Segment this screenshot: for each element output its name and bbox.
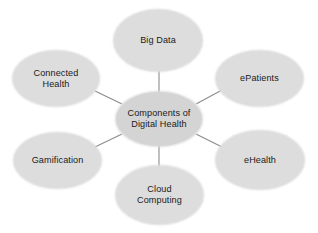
node-components-of-digital-health-label: Components of Digital Health [125, 108, 194, 129]
edge-center-to-epatients [196, 90, 222, 104]
concept-map-diagram: Big Data ePatients eHealth Cloud Computi… [0, 0, 318, 233]
node-cloud-computing[interactable]: Cloud Computing [116, 166, 203, 224]
edge-center-to-ehealth [196, 134, 222, 147]
node-big-data-label: Big Data [137, 35, 179, 46]
node-connected-health-label: Connected Health [31, 68, 82, 89]
edge-center-to-connected-health [95, 91, 122, 104]
node-gamification-label: Gamification [29, 155, 87, 166]
node-big-data[interactable]: Big Data [114, 10, 202, 71]
edge-center-to-gamification [95, 134, 122, 147]
node-connected-health[interactable]: Connected Health [13, 51, 99, 106]
node-epatients[interactable]: ePatients [216, 51, 303, 106]
node-ehealth-label: eHealth [241, 155, 279, 166]
node-ehealth[interactable]: eHealth [216, 131, 304, 189]
node-gamification[interactable]: Gamification [14, 133, 101, 188]
node-epatients-label: ePatients [237, 73, 282, 84]
node-components-of-digital-health[interactable]: Components of Digital Health [116, 92, 202, 146]
node-cloud-computing-label: Cloud Computing [134, 184, 185, 205]
